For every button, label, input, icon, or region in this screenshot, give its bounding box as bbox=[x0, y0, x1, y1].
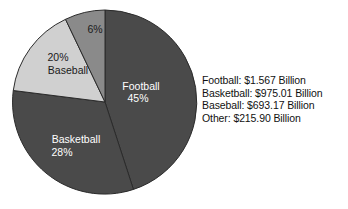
legend-item-football: Football: $1.567 Billion bbox=[202, 74, 346, 87]
pie-label-baseball-name: Baseball bbox=[48, 64, 88, 76]
legend: Football: $1.567 Billion Basketball: $97… bbox=[202, 74, 346, 124]
legend-item-basketball: Basketball: $975.01 Billion bbox=[202, 87, 346, 100]
pie-label-football-percent: 45% bbox=[127, 92, 148, 104]
pie-label-football-name: Football bbox=[122, 80, 159, 92]
pie-label-baseball-percent: 20% bbox=[47, 51, 68, 63]
pie-label-basketball-percent: 28% bbox=[51, 146, 72, 158]
pie-chart-figure: Football 45% Basketball 28% 20% Baseball… bbox=[0, 0, 348, 209]
legend-item-other: Other: $215.90 Billion bbox=[202, 112, 346, 125]
pie-label-basketball-name: Basketball bbox=[52, 133, 100, 145]
pie-label-other-percent: 6% bbox=[87, 23, 102, 35]
legend-item-baseball: Baseball: $693.17 Billion bbox=[202, 99, 346, 112]
